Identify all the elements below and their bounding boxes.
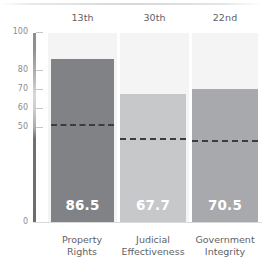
category-label-line-2: Rights [42,246,122,258]
y-axis-label-80: 80 [4,66,28,74]
reference-line-judicial-effectiveness [120,138,186,140]
bar-value-government-integrity: 70.5 [192,197,258,213]
y-axis-tick-60 [36,108,43,109]
column-rank-0: 13th [48,11,117,25]
y-axis-tick-50 [36,127,43,128]
bar-value-property-rights: 86.5 [51,197,114,213]
y-axis-tick-80 [36,70,43,71]
column-rank-2: 22nd [192,11,258,25]
category-label-line-2: Integrity [185,246,262,258]
category-label-property-rights: Property Rights [42,234,122,257]
reference-line-property-rights [51,124,114,126]
category-label-line-1: Property [42,234,122,246]
top-divider-rule [0,3,262,5]
bar-chart: 13th 30th 22nd 100 80 70 60 50 0 86.5 67… [0,0,262,262]
y-axis-label-100: 100 [4,28,28,36]
column-rank-1: 30th [120,11,189,25]
y-axis-label-50: 50 [4,123,28,131]
category-label-line-1: Government [185,234,262,246]
category-label-line-1: Judicial [113,234,193,246]
bar-value-judicial-effectiveness: 67.7 [120,197,186,213]
x-axis-baseline [33,222,262,223]
y-axis-tick-70 [36,89,43,90]
y-axis-tick-100 [36,32,43,33]
category-label-government-integrity: Government Integrity [185,234,262,257]
category-label-judicial-effectiveness: Judicial Effectiveness [113,234,193,257]
y-axis-label-70: 70 [4,85,28,93]
reference-line-government-integrity [192,140,258,142]
y-axis-label-60: 60 [4,104,28,112]
y-axis-label-0: 0 [4,218,28,226]
category-label-line-2: Effectiveness [113,246,193,258]
